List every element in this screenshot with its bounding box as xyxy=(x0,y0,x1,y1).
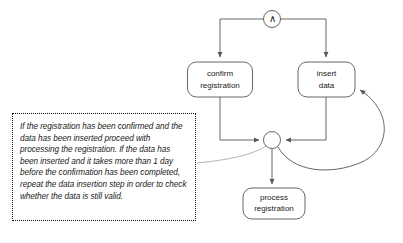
process-registration-label-line1: process xyxy=(260,193,288,202)
insert-data-label-line1: insert xyxy=(317,69,337,78)
edge-junction-to-insert-data-loop xyxy=(278,90,384,170)
process-registration-label-line2: registration xyxy=(254,204,294,213)
edge-confirm-registration-to-junction xyxy=(220,97,259,140)
annotation-leader-line xyxy=(197,146,266,163)
edge-and-gate-to-insert-data xyxy=(280,19,326,57)
edge-insert-data-to-junction xyxy=(286,97,326,140)
annotation-box: If the registration has been confirmed a… xyxy=(12,113,196,221)
diagram-canvas: ∧ confirm registration insert data proce… xyxy=(0,0,403,243)
node-and-gate[interactable]: ∧ xyxy=(264,11,281,28)
node-sync-junction[interactable] xyxy=(264,132,281,149)
edge-and-gate-to-confirm-registration xyxy=(220,19,264,57)
confirm-registration-label-line1: confirm xyxy=(207,69,234,78)
node-insert-data[interactable]: insert data xyxy=(298,62,355,97)
node-process-registration[interactable]: process registration xyxy=(243,188,305,219)
insert-data-label-line2: data xyxy=(319,81,335,90)
annotation-text: If the registration has been confirmed a… xyxy=(20,121,190,202)
confirm-registration-label-line2: registration xyxy=(200,81,240,90)
and-gate-glyph: ∧ xyxy=(269,13,276,24)
node-confirm-registration[interactable]: confirm registration xyxy=(188,62,253,97)
